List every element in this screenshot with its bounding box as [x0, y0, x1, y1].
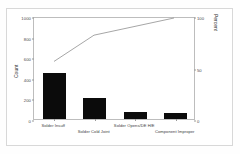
- y-tick-label: 800: [24, 36, 31, 41]
- x-tick-mark: [176, 119, 177, 121]
- x-tick-mark: [135, 119, 136, 121]
- y2-tick-mark: [194, 18, 196, 19]
- y2-tick-mark: [194, 69, 196, 70]
- pareto-chart: Count Percent 02004006008001000 050100 S…: [0, 0, 240, 154]
- x-category-label: Solder Insuff: [41, 123, 65, 128]
- x-tick-mark: [95, 119, 96, 121]
- y-tick-mark: [32, 121, 34, 122]
- x-tick-mark: [54, 119, 55, 121]
- x-category-label: Solder Cold Joint: [78, 129, 110, 134]
- x-category-label: Component Improper: [155, 129, 195, 134]
- y2-tick-mark: [194, 121, 196, 122]
- y-tick-label: 0: [29, 119, 31, 124]
- y2-tick-label: 50: [197, 67, 202, 72]
- y-tick-label: 600: [24, 57, 31, 62]
- y-tick-label: 200: [24, 98, 31, 103]
- y-tick-label: 1000: [21, 16, 31, 21]
- cumulative-percent-line: [34, 18, 194, 119]
- y-tick-label: 400: [24, 77, 31, 82]
- y2-axis-title-percent: Percent: [213, 14, 219, 31]
- y2-tick-label: 100: [197, 16, 204, 21]
- x-category-label: Solder Opens/DE H/E: [114, 123, 155, 128]
- plot-area: 02004006008001000 050100: [33, 17, 195, 120]
- y2-tick-label: 0: [197, 119, 199, 124]
- cumulative-line-path: [54, 18, 174, 61]
- y-axis-title-count: Count: [13, 65, 19, 78]
